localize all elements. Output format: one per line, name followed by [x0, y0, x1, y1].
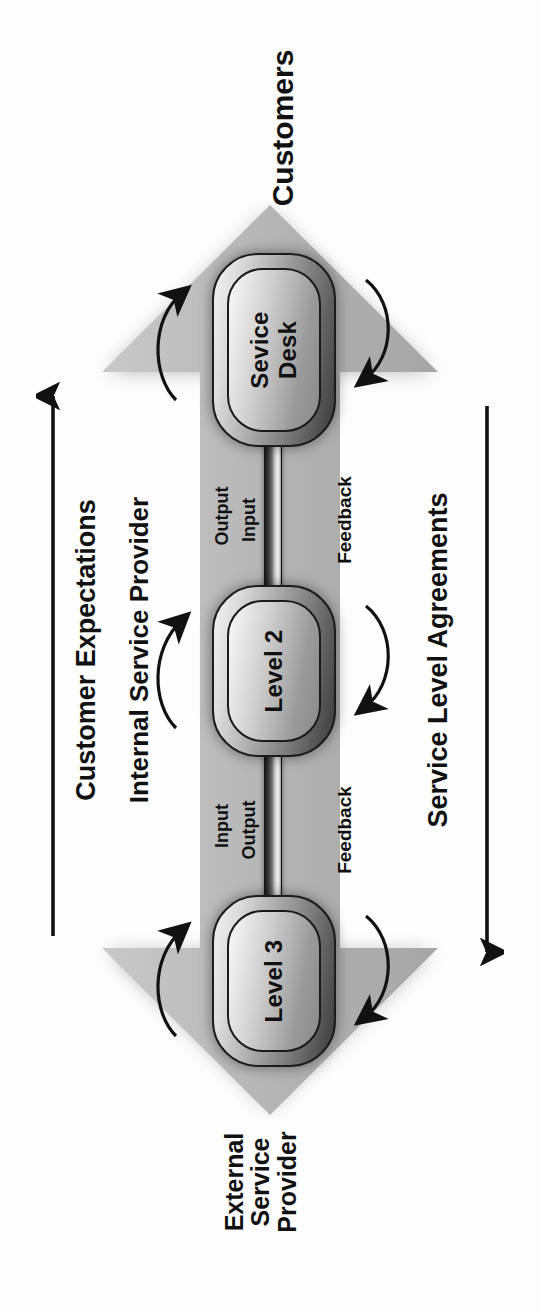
- arc-sd-left: [158, 293, 182, 400]
- arc-l3-right: [364, 916, 388, 1018]
- band-label-internal-service-provider: Internal Service Provider: [126, 497, 153, 803]
- arc-l3-left: [158, 930, 182, 1036]
- arc-sd-right: [364, 280, 388, 380]
- customer-expectations-arrow-line: [36, 380, 70, 940]
- external-provider-line2: Service: [247, 1131, 273, 1232]
- customer-expectations-label: Customer Expectations: [72, 499, 100, 801]
- service-level-agreements-arrow-line: [470, 400, 504, 970]
- external-provider-line1: External: [221, 1131, 247, 1232]
- service-level-agreements-label: Service Level Agreements: [424, 492, 452, 827]
- external-provider-line3: Provider: [273, 1131, 299, 1232]
- arc-l2-right: [364, 606, 388, 708]
- flow-label-input-l2-l3: Input: [213, 804, 232, 848]
- flow-label-output-sd-l2: Output: [213, 487, 232, 546]
- endpoint-label-external-service-provider: External Service Provider: [221, 1131, 300, 1232]
- feedback-label-l2-l3: Feedback: [335, 786, 355, 874]
- flow-label-output-l2-l3: Output: [240, 801, 259, 860]
- feedback-label-sd-l2: Feedback: [335, 476, 355, 564]
- endpoint-label-customers: Customers: [267, 50, 299, 207]
- arc-l2-left: [158, 620, 182, 728]
- diagram-canvas: Sevice Desk Level 2 Level 3: [0, 0, 539, 1312]
- flow-label-input-sd-l2: Input: [240, 498, 259, 542]
